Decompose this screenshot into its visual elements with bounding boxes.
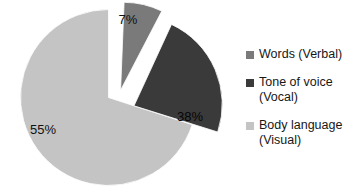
legend-item-body-language[interactable]: Body language (Visual) <box>246 118 362 148</box>
legend-swatch-icon-body-language <box>246 122 254 130</box>
chart-legend: Words (Verbal) Tone of voice (Vocal) Bod… <box>246 47 362 148</box>
slice-value-label-words: 7% <box>119 12 138 27</box>
slice-value-label-body-language: 55% <box>30 122 56 137</box>
legend-swatch-icon-tone-of-voice <box>246 79 254 87</box>
legend-label-tone-of-voice: Tone of voice (Vocal) <box>259 75 333 105</box>
legend-label-words: Words (Verbal) <box>259 47 342 62</box>
pie-svg: 7% 38% 55% <box>0 0 240 194</box>
pie-plot-area: 7% 38% 55% <box>0 0 240 194</box>
pie-chart-figure: 7% 38% 55% Words (Verbal) Tone of voice … <box>0 0 362 194</box>
slice-value-label-tone-of-voice: 38% <box>177 109 203 124</box>
legend-item-words[interactable]: Words (Verbal) <box>246 47 362 62</box>
legend-swatch-icon-words <box>246 51 254 59</box>
legend-label-body-language: Body language (Visual) <box>259 118 342 148</box>
legend-item-tone-of-voice[interactable]: Tone of voice (Vocal) <box>246 75 362 105</box>
